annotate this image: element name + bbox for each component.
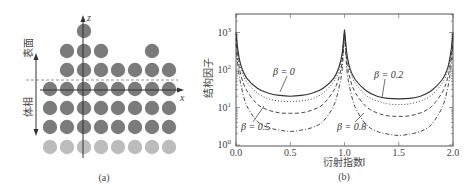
atom bbox=[128, 140, 142, 154]
atom bbox=[77, 82, 91, 96]
atom bbox=[111, 140, 125, 154]
atom bbox=[43, 101, 57, 115]
atom bbox=[60, 63, 74, 77]
atom-lattice-diagram: z x 表面 体相 (a) bbox=[22, 12, 185, 184]
atom bbox=[43, 120, 57, 134]
atom bbox=[145, 63, 159, 77]
atom bbox=[94, 44, 108, 58]
curve-0.5 bbox=[236, 33, 453, 117]
x-axis-label: 衍射指数l bbox=[323, 156, 366, 168]
atom bbox=[77, 63, 91, 77]
atom bbox=[145, 101, 159, 115]
atom bbox=[60, 44, 74, 58]
atom bbox=[162, 82, 176, 96]
beta-0.8-annotation: β = 0.8 bbox=[336, 121, 366, 132]
atom bbox=[111, 63, 125, 77]
atom bbox=[60, 101, 74, 115]
beta-0.2-leader bbox=[382, 79, 385, 98]
y-tick-label: 103 bbox=[218, 26, 232, 38]
beta-0-annotation: β = 0 bbox=[272, 66, 295, 77]
atom bbox=[128, 63, 142, 77]
panel-a-caption: (a) bbox=[98, 172, 109, 184]
beta-0-leader bbox=[280, 76, 287, 92]
atom bbox=[77, 24, 91, 38]
atom bbox=[128, 82, 142, 96]
atom bbox=[111, 120, 125, 134]
atom bbox=[43, 82, 57, 96]
structure-factor-chart: 100101102103 0.00.51.01.52.0 β = 0 β = 0… bbox=[202, 14, 459, 183]
atom bbox=[77, 120, 91, 134]
y-tick-label: 101 bbox=[218, 101, 232, 113]
up-arrow-icon bbox=[34, 53, 39, 60]
panel-b-caption: (b) bbox=[338, 171, 350, 183]
curves bbox=[236, 30, 453, 136]
surface-label: 表面 bbox=[22, 38, 34, 58]
y-tick-label: 102 bbox=[218, 63, 232, 75]
x-axis-label: x bbox=[179, 92, 185, 103]
atom bbox=[111, 101, 125, 115]
bulk-label: 体相 bbox=[22, 97, 34, 117]
atom bbox=[43, 140, 57, 154]
atom bbox=[128, 120, 142, 134]
beta-0.5-leader bbox=[253, 106, 264, 122]
atom bbox=[145, 140, 159, 154]
x-tick-label: 0.5 bbox=[284, 147, 297, 158]
atom bbox=[162, 140, 176, 154]
z-axis-arrow-icon bbox=[81, 15, 86, 22]
atom bbox=[77, 44, 91, 58]
atom bbox=[94, 140, 108, 154]
atom bbox=[94, 82, 108, 96]
atom bbox=[111, 82, 125, 96]
atom bbox=[128, 101, 142, 115]
down-arrow-icon bbox=[34, 129, 39, 136]
atom bbox=[94, 120, 108, 134]
atom-grid bbox=[43, 24, 176, 154]
atom bbox=[94, 101, 108, 115]
atom bbox=[162, 120, 176, 134]
atom bbox=[162, 63, 176, 77]
atom bbox=[162, 101, 176, 115]
y-axis-label: 结构因子 bbox=[202, 58, 214, 98]
x-tick-label: 0.0 bbox=[230, 147, 243, 158]
x-tick-label: 2.0 bbox=[447, 147, 460, 158]
atom bbox=[60, 120, 74, 134]
atom bbox=[60, 140, 74, 154]
x-tick-label: 1.5 bbox=[393, 147, 406, 158]
atom bbox=[77, 140, 91, 154]
atom bbox=[145, 44, 159, 58]
atom bbox=[94, 63, 108, 77]
z-axis-label: z bbox=[86, 12, 91, 23]
atom bbox=[145, 120, 159, 134]
atom bbox=[145, 82, 159, 96]
atom bbox=[77, 101, 91, 115]
atom bbox=[60, 82, 74, 96]
beta-0.5-annotation: β = 0.5 bbox=[240, 121, 270, 132]
figure: z x 表面 体相 (a) 100101102103 0.00.51.01.52… bbox=[0, 0, 476, 193]
beta-0.2-annotation: β = 0.2 bbox=[373, 69, 403, 80]
